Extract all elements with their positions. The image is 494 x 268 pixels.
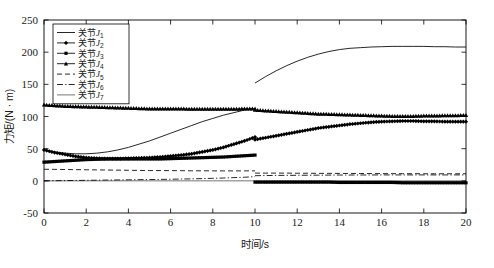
x-tick-label: 12: [292, 216, 303, 228]
y-tick-label: 0: [33, 175, 39, 187]
x-tick-label: 8: [210, 216, 216, 228]
y-axis-title: 力矩/(N · m): [3, 89, 15, 145]
x-tick-label: 18: [418, 216, 430, 228]
series-marker: [64, 52, 67, 55]
y-tick-label: 250: [22, 14, 39, 26]
x-tick-label: 6: [168, 216, 174, 228]
x-tick-label: 14: [334, 216, 346, 228]
y-tick-label: 100: [22, 111, 39, 123]
chart-figure: 02468101214161820 -50050100150200250 关节J…: [0, 0, 494, 268]
torque-vs-time-line-chart: 02468101214161820 -50050100150200250 关节J…: [0, 0, 494, 268]
legend: 关节J1关节J2关节J3关节J4关节J5关节J6关节J7: [53, 24, 129, 104]
x-tick-label: 10: [250, 216, 262, 228]
series-marker: [464, 181, 467, 184]
y-tick-label: 50: [27, 143, 39, 155]
x-tick-label: 16: [376, 216, 388, 228]
x-tick-label: 20: [461, 216, 473, 228]
y-tick-label: 200: [22, 46, 39, 58]
x-axis-title: 时间/s: [241, 238, 269, 250]
x-tick-label: 2: [83, 216, 89, 228]
y-tick-label: -50: [23, 207, 38, 219]
series-marker: [253, 154, 256, 157]
y-tick-label: 150: [22, 78, 39, 90]
x-tick-label: 4: [126, 216, 132, 228]
x-tick-label: 0: [41, 216, 47, 228]
